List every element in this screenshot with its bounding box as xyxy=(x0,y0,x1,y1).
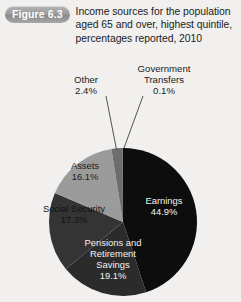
callout-label-government-transfers: Government Transfers 0.1% xyxy=(138,63,191,96)
callout-label-other: Other 2.4% xyxy=(74,74,99,96)
slice-label-assets-value: 16.1% xyxy=(72,171,99,182)
leader-line-government-transfers xyxy=(124,96,143,148)
slice-label-pensions-name2: Retirement xyxy=(90,248,136,259)
slice-label-earnings-value: 44.9% xyxy=(151,206,178,217)
figure-number-badge: Figure 6.3 xyxy=(5,6,70,23)
callout-government-transfers-value: 0.1% xyxy=(153,85,175,96)
slice-label-earnings-name: Earnings xyxy=(145,195,182,206)
callout-other-name: Other xyxy=(74,74,99,85)
slice-label-earnings: Earnings 44.9% xyxy=(145,195,182,217)
slice-label-pensions-name: Pensions and xyxy=(85,237,142,248)
callout-government-transfers-name: Government xyxy=(138,63,191,74)
pie-chart: Other 2.4% Government Transfers 0.1% Ear… xyxy=(0,54,241,302)
figure-panel: Figure 6.3 Income sources for the popula… xyxy=(0,0,241,302)
callout-leader-lines xyxy=(106,96,143,150)
leader-line-other xyxy=(106,96,117,150)
figure-header: Figure 6.3 Income sources for the popula… xyxy=(0,0,241,45)
pie-chart-svg: Other 2.4% Government Transfers 0.1% Ear… xyxy=(0,54,241,302)
callout-other-value: 2.4% xyxy=(75,85,97,96)
figure-title: Income sources for the population aged 6… xyxy=(76,5,237,45)
slice-label-social-security-value: 17.3% xyxy=(61,214,88,225)
slice-label-social-security-name: Social Security xyxy=(43,203,105,214)
slice-label-pensions-name3: Savings xyxy=(96,259,130,270)
slice-label-assets: Assets 16.1% xyxy=(71,160,99,182)
slice-label-assets-name: Assets xyxy=(71,160,99,171)
callout-government-transfers-name2: Transfers xyxy=(144,74,184,85)
slice-label-pensions-value: 19.1% xyxy=(100,270,127,281)
